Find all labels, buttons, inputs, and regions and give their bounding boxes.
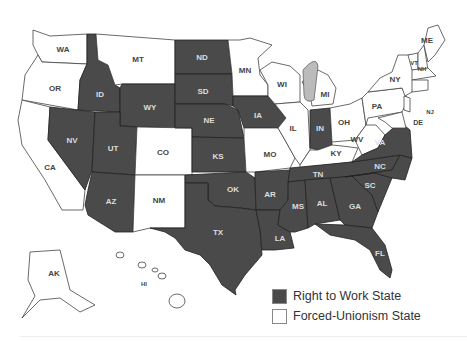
label-ga: GA [349,202,361,211]
label-nc: NC [374,162,386,171]
swatch-right-to-work [272,289,287,304]
label-al: AL [317,199,328,208]
label-ne: NE [203,116,215,125]
label-hi: HI [141,281,147,287]
label-de: DE [413,119,423,126]
label-pa: PA [372,102,383,111]
legend-label: Forced-Unionism State [293,309,421,323]
label-ky: KY [330,149,342,158]
label-nd: ND [196,53,208,62]
label-nv: NV [66,136,78,145]
label-or: OR [49,84,61,93]
legend: Right to Work State Forced-Unionism Stat… [272,286,421,326]
label-nh: NH [418,66,427,72]
label-az: AZ [106,197,117,206]
legend-item-right-to-work: Right to Work State [272,286,421,306]
state-nj[interactable] [404,96,410,112]
label-fl: FL [375,249,385,258]
label-ca: CA [44,163,56,172]
label-oh: OH [338,118,350,127]
swatch-forced-unionism [272,309,287,324]
label-wy: WY [144,103,158,112]
label-nj: NJ [426,109,434,115]
label-mn: MN [239,66,252,75]
label-mi: MI [321,90,330,99]
state-or[interactable] [22,55,87,110]
label-mt: MT [132,55,144,64]
label-ia: IA [254,111,262,120]
label-wv: WV [351,135,365,144]
label-sc: SC [364,181,375,190]
label-tx: TX [213,228,224,237]
state-ak[interactable] [22,250,95,318]
divider [20,336,467,337]
label-tn: TN [313,170,324,179]
label-mo: MO [264,150,277,159]
label-co: CO [157,148,169,157]
label-wa: WA [57,45,70,54]
state-hi[interactable] [116,252,185,308]
legend-item-forced-unionism: Forced-Unionism State [272,306,421,326]
label-ak: AK [48,269,60,278]
label-va: VA [375,138,386,147]
label-ms: MS [292,202,305,211]
label-in: IN [316,124,324,133]
label-la: LA [275,234,286,243]
state-ct-ri[interactable] [412,80,428,92]
label-ks: KS [212,152,224,161]
label-sd: SD [197,87,208,96]
label-me: ME [421,36,434,45]
label-ut: UT [108,144,119,153]
label-nm: NM [153,196,166,205]
label-wi: WI [277,80,287,89]
label-id: ID [96,90,104,99]
legend-label: Right to Work State [293,289,401,303]
label-ok: OK [227,185,239,194]
label-ar: AR [264,190,276,199]
label-il: IL [289,124,296,133]
label-ny: NY [389,75,401,84]
